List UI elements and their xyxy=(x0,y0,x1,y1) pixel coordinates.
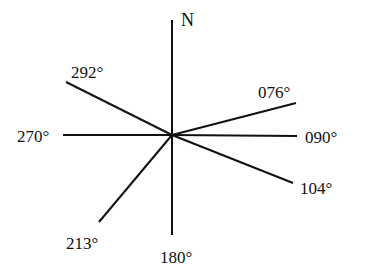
bearing-line-292 xyxy=(66,82,172,135)
bearing-line-076 xyxy=(172,103,296,135)
bearing-label-213: 213° xyxy=(66,235,98,252)
bearing-label-104: 104° xyxy=(300,180,332,197)
bearing-line-104 xyxy=(172,135,293,183)
north-label: N xyxy=(181,11,194,29)
bearing-line-090 xyxy=(172,135,297,136)
bearing-diagram: N 292° 076° 270° 090° 104° 213° 180° xyxy=(0,0,376,277)
bearing-line-213 xyxy=(99,135,172,222)
bearing-label-076: 076° xyxy=(258,84,290,101)
bearing-label-270: 270° xyxy=(17,128,49,145)
bearing-label-090: 090° xyxy=(305,129,337,146)
bearing-label-292: 292° xyxy=(71,64,103,81)
bearing-label-180: 180° xyxy=(160,249,192,266)
